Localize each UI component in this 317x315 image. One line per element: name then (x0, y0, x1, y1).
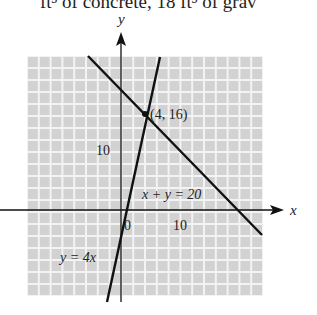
line-label-y-4x: y = 4x (58, 250, 97, 265)
origin-label: 0 (124, 218, 131, 233)
point-label: (4, 16) (150, 107, 188, 123)
intersection-point (142, 111, 148, 117)
x-tick-label: 10 (173, 218, 187, 233)
y-tick-label: 10 (96, 143, 110, 158)
y-axis-label: y (116, 11, 125, 27)
line-label-x-plus-y: x + y = 20 (141, 187, 201, 202)
x-axis-label: x (289, 202, 297, 218)
chart: y x 0 10 10 (4, 16) x + y = 20 y = 4x (0, 0, 317, 315)
